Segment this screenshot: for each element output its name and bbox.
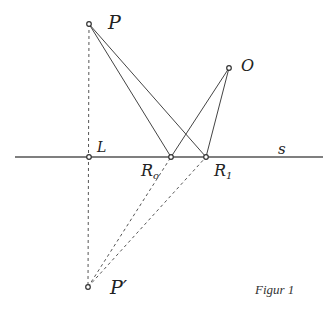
line-p-r1 [89,24,206,157]
label-o: O [241,56,254,75]
label-s: s [278,140,286,158]
figure-caption: Figur 1 [254,282,294,297]
point-o [227,66,232,71]
label-r1-main: R [213,161,226,180]
label-r1-subscript: 1 [226,170,232,181]
label-p: P [107,11,122,33]
reflection-diagram: P O L s Ro R1 P′ Figur 1 [0,0,331,309]
label-r1: R1 [213,161,232,181]
label-r0: Ro [140,161,159,181]
label-r0-subscript: o [153,170,159,181]
point-p-prime [86,285,91,290]
line-o-r1 [206,68,229,157]
label-p-prime: P′ [109,276,128,298]
point-l [87,155,92,160]
point-p [87,22,92,27]
point-r1 [204,155,209,160]
label-r0-main: R [140,161,153,180]
line-p-r0 [89,24,171,157]
point-r0 [169,155,174,160]
line-o-r0 [171,68,229,157]
label-l: L [96,139,106,155]
